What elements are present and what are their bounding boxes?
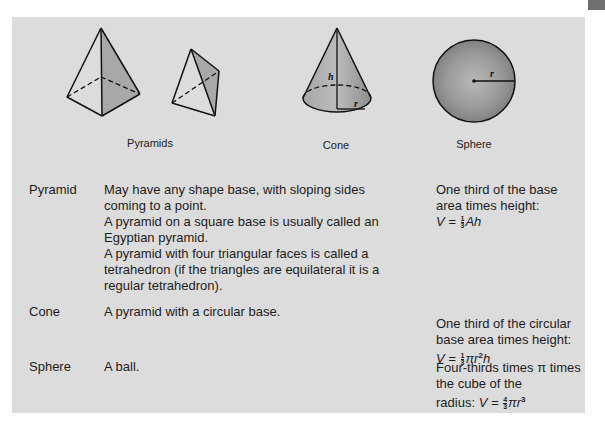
fraction: 13 (461, 216, 465, 229)
term-cone: Cone (29, 304, 60, 320)
description-sphere: A ball. (104, 359, 394, 375)
formula-pyramid: One third of the base area times height:… (436, 182, 581, 230)
pyramids-caption: Pyramids (127, 137, 173, 149)
description-line: A pyramid with four triangular faces is … (104, 246, 394, 294)
description-line: A ball. (104, 359, 394, 375)
description-pyramid: May have any shape base, with sloping si… (104, 182, 394, 294)
formula-text: Four-thirds times π times the cube of th… (436, 360, 581, 392)
formula-text: One third of the circular base area time… (436, 316, 581, 348)
cone-icon: h r (303, 28, 371, 112)
description-line: May have any shape base, with sloping si… (104, 182, 394, 214)
description-line: A pyramid with a circular base. (104, 304, 394, 320)
sphere-icon: r (433, 40, 515, 122)
square-pyramid-icon (67, 28, 140, 116)
svg-text:r: r (354, 98, 358, 109)
cone-caption: Cone (323, 139, 349, 151)
formula-sphere: Four-thirds times π times the cube of th… (436, 360, 581, 411)
formula-expression: radius: V = 43πr3 (436, 392, 581, 411)
formula-expression: V = 13Ah (436, 214, 581, 230)
tetrahedron-icon (172, 49, 219, 116)
solids-panel: h r r Pyramids Cone Sphere Pyramid May h… (12, 17, 585, 413)
svg-text:h: h (328, 71, 334, 82)
sphere-caption: Sphere (456, 138, 491, 150)
corner-tab (588, 0, 605, 10)
svg-text:r: r (490, 68, 494, 79)
description-line: A pyramid on a square base is usually ca… (104, 214, 394, 246)
description-cone: A pyramid with a circular base. (104, 304, 394, 320)
term-sphere: Sphere (29, 359, 71, 375)
solids-illustration: h r r (12, 17, 585, 157)
term-pyramid: Pyramid (29, 182, 77, 198)
fraction: 43 (503, 397, 507, 410)
figures-area: h r r Pyramids Cone Sphere (12, 17, 585, 157)
formula-text: One third of the base area times height: (436, 182, 581, 214)
